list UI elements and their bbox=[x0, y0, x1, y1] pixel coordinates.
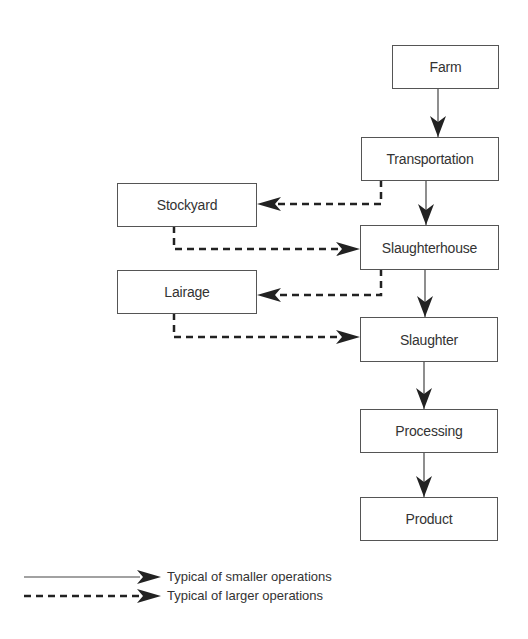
node-label: Processing bbox=[395, 423, 462, 439]
node-label: Slaughter bbox=[400, 332, 458, 348]
arrowhead-icon bbox=[336, 330, 360, 344]
legend-dashed-line bbox=[24, 589, 161, 603]
edge-slaughter-processing bbox=[416, 361, 432, 409]
node-slaughter: Slaughter bbox=[360, 317, 498, 362]
edge-processing-product bbox=[416, 452, 432, 497]
node-product: Product bbox=[360, 497, 498, 541]
node-slaughterhouse: Slaughterhouse bbox=[360, 225, 499, 270]
node-label: Slaughterhouse bbox=[382, 240, 477, 256]
node-label: Stockyard bbox=[157, 197, 217, 213]
node-processing: Processing bbox=[360, 409, 498, 453]
node-label: Transportation bbox=[387, 151, 474, 167]
arrowhead-icon bbox=[257, 288, 281, 302]
edge-slaughterhouse-slaughter bbox=[417, 269, 433, 317]
edge-transportation-slaughterhouse bbox=[418, 180, 434, 225]
edge-lairage-slaughter bbox=[174, 313, 360, 344]
edge-slaughterhouse-lairage bbox=[257, 269, 381, 302]
node-farm: Farm bbox=[392, 45, 499, 89]
node-label: Product bbox=[406, 511, 453, 527]
node-label: Farm bbox=[430, 59, 462, 75]
node-lairage: Lairage bbox=[117, 270, 257, 314]
edge-farm-transportation bbox=[430, 88, 446, 137]
edge-stockyard-slaughterhouse bbox=[174, 226, 360, 256]
legend-dashed-label: Typical of larger operations bbox=[167, 588, 323, 603]
arrowhead-icon bbox=[336, 242, 360, 256]
arrowhead-icon bbox=[137, 570, 161, 584]
arrowhead-icon bbox=[137, 589, 161, 603]
node-stockyard: Stockyard bbox=[117, 183, 257, 227]
legend-solid-line bbox=[24, 570, 161, 584]
legend-solid-label: Typical of smaller operations bbox=[167, 569, 332, 584]
arrowhead-icon bbox=[257, 197, 281, 211]
node-transportation: Transportation bbox=[361, 137, 499, 181]
node-label: Lairage bbox=[164, 284, 209, 300]
edge-transportation-stockyard bbox=[257, 180, 381, 211]
